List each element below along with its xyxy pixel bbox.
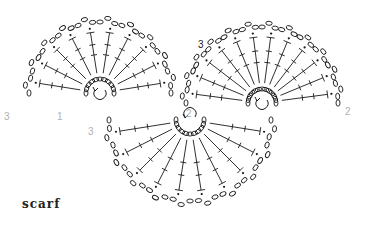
chain-oval xyxy=(304,34,312,41)
slip-stitch-dot xyxy=(89,28,91,30)
chain-oval xyxy=(250,173,257,180)
slip-stitch-dot xyxy=(288,37,290,39)
double-crochet-spoke xyxy=(179,140,187,190)
slip-stitch-dot xyxy=(122,153,124,155)
double-crochet-spoke xyxy=(193,140,201,190)
double-crochet-spoke xyxy=(103,33,109,73)
slip-stitch-dot xyxy=(270,32,272,34)
chain-oval xyxy=(234,182,242,189)
chain-oval xyxy=(154,48,161,56)
chain-oval xyxy=(168,82,173,89)
chain-oval xyxy=(162,60,168,67)
round-number-label: 2 xyxy=(345,106,351,117)
stitch-crossbar xyxy=(207,60,212,66)
chain-oval xyxy=(39,48,46,56)
chain-oval xyxy=(240,177,247,184)
stitch-crossbar xyxy=(105,44,111,45)
chain-oval xyxy=(104,134,109,141)
slip-stitch-dot xyxy=(109,28,111,30)
double-crochet-spoke xyxy=(204,134,240,170)
double-crochet-spoke xyxy=(201,78,243,96)
chain-oval xyxy=(265,151,271,158)
double-crochet-spoke xyxy=(270,42,288,84)
slip-stitch-dot xyxy=(252,32,254,34)
slip-stitch-dot xyxy=(115,131,117,133)
double-crochet-spoke xyxy=(265,38,271,84)
chain-oval xyxy=(74,23,81,29)
double-crochet-spoke xyxy=(46,65,83,84)
double-crochet-spoke xyxy=(109,39,128,76)
stitch-crossbar xyxy=(210,93,211,99)
double-crochet-spoke xyxy=(127,129,172,152)
slip-stitch-dot xyxy=(304,46,306,48)
chain-oval xyxy=(187,199,193,203)
stitch-crossbar xyxy=(91,55,97,56)
chain-oval xyxy=(312,46,319,53)
stitch-crossbar xyxy=(196,90,197,98)
slip-stitch-dot xyxy=(316,59,318,61)
slip-stitch-dot xyxy=(145,46,147,48)
chain-oval xyxy=(129,180,136,187)
direction-arrow-icon xyxy=(94,90,106,99)
chain-oval xyxy=(161,194,168,200)
chain-oval xyxy=(286,25,293,31)
chain-oval xyxy=(30,67,36,74)
stitch-crossbar xyxy=(51,82,52,88)
slip-stitch-dot xyxy=(69,34,71,36)
stitch-crossbar xyxy=(292,76,296,81)
double-crochet-spoke xyxy=(208,129,253,152)
stitch-crossbar xyxy=(254,62,260,63)
chain-oval xyxy=(193,61,200,69)
double-crochet-spoke xyxy=(199,138,222,183)
chain-oval xyxy=(146,34,153,41)
stitch-crossbar xyxy=(138,84,139,90)
chain-oval xyxy=(257,157,264,165)
stitch-crossbar xyxy=(44,62,48,69)
chain-oval xyxy=(193,53,200,61)
chain-oval xyxy=(224,27,231,33)
stitch-crossbar xyxy=(313,93,314,99)
chain-oval xyxy=(272,26,279,31)
slip-stitch-dot xyxy=(234,37,236,39)
double-crochet-spoke xyxy=(140,134,176,170)
chain-oval xyxy=(138,32,146,39)
chain-oval xyxy=(127,21,134,27)
stitch-crossbar xyxy=(124,37,131,41)
double-crochet-spoke xyxy=(120,123,170,131)
double-crochet-spoke xyxy=(114,50,143,79)
stitch-crossbar xyxy=(148,82,149,88)
slip-stitch-dot xyxy=(41,62,43,64)
stitch-crossbar xyxy=(180,162,186,163)
chain-oval xyxy=(246,96,252,103)
stitch-crossbar xyxy=(219,69,223,74)
chain-oval xyxy=(174,117,178,123)
slip-stitch-dot xyxy=(326,75,328,77)
diagram-caption: scarf xyxy=(22,197,60,211)
chain-oval xyxy=(269,117,273,123)
chain-oval xyxy=(338,86,343,93)
stitch-crossbar xyxy=(39,80,40,88)
crochet-diagram: 313232 scarf xyxy=(0,0,376,228)
stitch-crossbar xyxy=(245,126,246,132)
chain-oval xyxy=(229,190,237,197)
chain-oval xyxy=(118,23,125,29)
chain-oval xyxy=(171,74,176,81)
chain-oval xyxy=(251,88,259,95)
double-crochet-spoke xyxy=(72,39,91,76)
chain-oval xyxy=(23,82,28,89)
chain-oval xyxy=(255,87,262,93)
double-crochet-spoke xyxy=(40,83,80,89)
chain-oval xyxy=(239,27,246,33)
round-number-label: 1 xyxy=(57,111,63,122)
slip-stitch-dot xyxy=(242,172,244,174)
chain-oval xyxy=(104,16,111,21)
chain-oval xyxy=(336,100,340,106)
slip-stitch-dot xyxy=(201,193,203,195)
round-number-label: 2 xyxy=(186,108,192,119)
slip-stitch-dot xyxy=(35,82,37,84)
direction-arrow-icon xyxy=(256,100,268,109)
double-crochet-spoke xyxy=(274,51,302,87)
chain-oval xyxy=(184,100,188,106)
chain-oval xyxy=(107,117,111,123)
stitch-crossbar xyxy=(196,175,202,176)
